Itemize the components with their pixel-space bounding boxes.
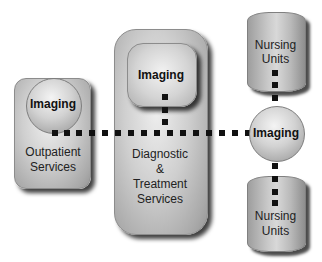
diagnostic-label-line4: Services <box>114 192 206 206</box>
nursing-bottom-label-line2: Units <box>247 224 304 238</box>
diagnostic-label-line1: Diagnostic <box>114 147 206 161</box>
outpatient-label-line1: Outpatient <box>14 145 92 159</box>
nursing-top-label-line1: Nursing <box>247 38 304 52</box>
nursing-bottom-label-line1: Nursing <box>247 209 304 223</box>
diagnostic-imaging-label: Imaging <box>127 68 195 82</box>
central-imaging-label: Imaging <box>249 126 303 140</box>
outpatient-label-line2: Services <box>14 160 92 174</box>
outpatient-imaging-label: Imaging <box>26 97 80 111</box>
diagnostic-label-line2: & <box>114 162 206 176</box>
nursing-top-label-line2: Units <box>247 52 304 66</box>
diagnostic-label-line3: Treatment <box>114 177 206 191</box>
